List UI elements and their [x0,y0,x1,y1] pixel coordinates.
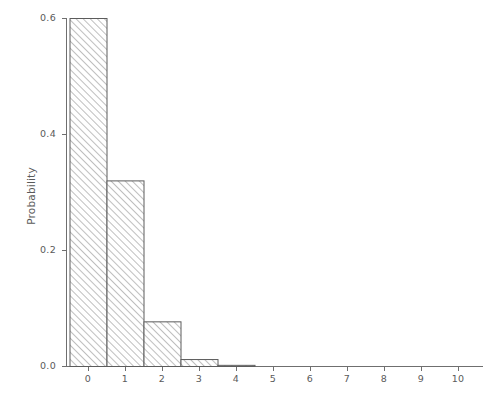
bar [70,19,107,367]
bar-series [70,19,255,367]
bar [107,181,144,367]
bar [218,365,255,366]
chart-container: Probability 0.00.20.40.6 012345678910 [0,0,489,394]
bar [144,322,181,367]
plot-area [0,0,489,394]
bar [181,360,218,367]
